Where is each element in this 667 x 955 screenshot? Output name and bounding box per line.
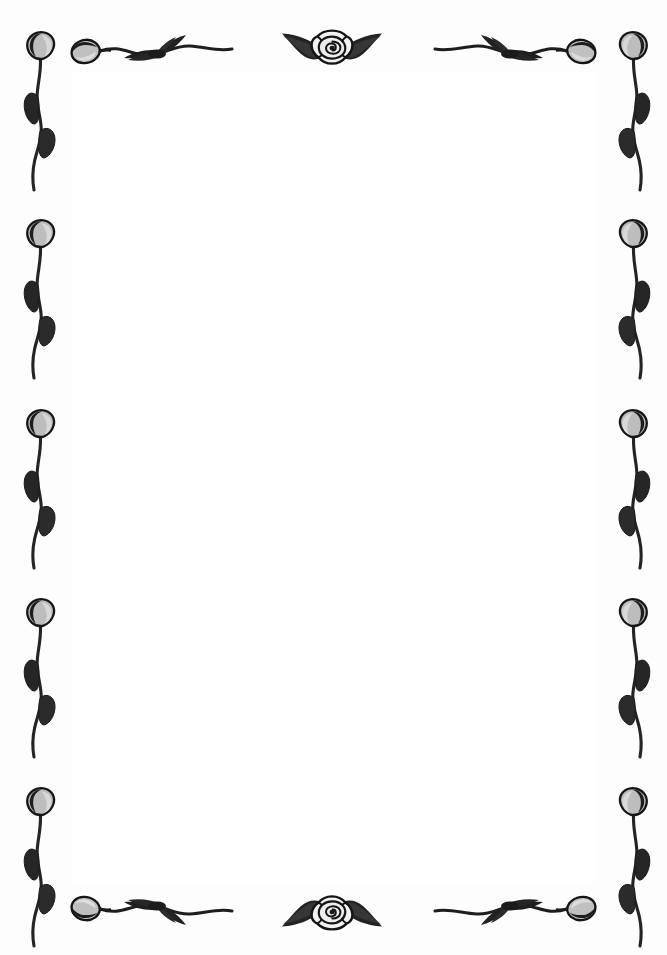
writing-area[interactable] bbox=[78, 78, 589, 877]
page bbox=[0, 0, 667, 955]
